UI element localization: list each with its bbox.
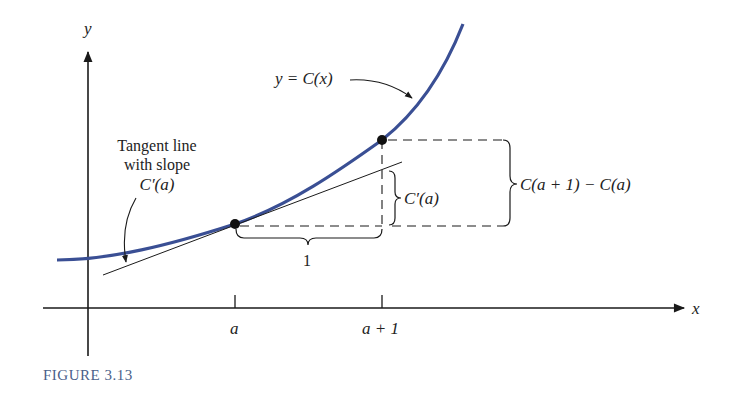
tangent-rise-label: C′(a): [404, 189, 439, 208]
run-brace: [236, 229, 382, 245]
point-a: [230, 219, 240, 229]
x-axis-label: x: [691, 299, 700, 318]
y-axis-label: y: [82, 19, 92, 38]
run-label: 1: [303, 252, 311, 269]
tangent-annotation-line2: with slope: [124, 156, 190, 174]
curve-label: y = C(x): [273, 69, 333, 88]
point-a-plus-1: [377, 135, 387, 145]
tangent-rise-brace: [389, 171, 401, 225]
tangent-annotation-line1: Tangent line: [117, 137, 196, 155]
curve-rise-brace: [503, 140, 517, 226]
curve-label-arrow: [350, 80, 412, 98]
figure-caption: FIGURE 3.13: [43, 367, 133, 384]
tick-label-a: a: [230, 319, 239, 338]
figure-diagram: x y a a + 1 1 C′(a) C(a + 1) − C(a) y = …: [0, 0, 729, 401]
tangent-annotation-line3: C′(a): [140, 175, 175, 194]
curve-rise-label: C(a + 1) − C(a): [520, 175, 631, 194]
tick-label-a-plus-1: a + 1: [362, 319, 399, 338]
